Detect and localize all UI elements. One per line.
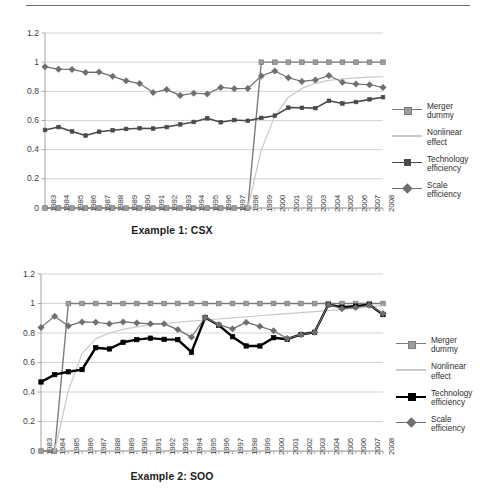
data-point-marker bbox=[232, 118, 236, 122]
legend-item-label: Merger dummy bbox=[431, 336, 458, 355]
data-point-marker bbox=[219, 120, 223, 124]
data-point-marker bbox=[42, 64, 48, 70]
x-axis-label: 2004 bbox=[332, 438, 341, 455]
data-point-marker bbox=[84, 134, 88, 138]
x-axis-label: 1999 bbox=[263, 438, 272, 455]
legend-item-label: Scale efficiency bbox=[427, 181, 461, 200]
data-point-marker bbox=[260, 116, 264, 120]
figure-page: 00.20.40.60.811.219831984198519861987198… bbox=[0, 0, 483, 498]
data-point-marker bbox=[52, 372, 56, 376]
legend-item-label: Scale efficiency bbox=[431, 415, 465, 434]
data-point-marker bbox=[136, 80, 142, 86]
data-point-marker bbox=[178, 123, 182, 127]
legend-item-label: Technology efficiency bbox=[427, 155, 468, 174]
y-axis-label: 0.4 bbox=[9, 387, 35, 397]
x-axis-label: 1997 bbox=[236, 438, 245, 455]
y-axis-label: 0.2 bbox=[9, 416, 35, 426]
data-point-marker bbox=[259, 60, 264, 65]
x-axis-label: 2007 bbox=[373, 195, 382, 212]
legend-line-icon bbox=[396, 369, 426, 370]
data-point-marker bbox=[148, 336, 152, 340]
data-point-marker bbox=[366, 82, 372, 88]
data-point-marker bbox=[109, 73, 115, 79]
x-axis-label: 1993 bbox=[181, 438, 190, 455]
data-point-marker bbox=[272, 68, 278, 74]
data-point-marker bbox=[258, 344, 262, 348]
data-point-marker bbox=[368, 98, 372, 102]
x-axis-label: 1986 bbox=[86, 438, 95, 455]
data-point-marker bbox=[107, 301, 112, 306]
data-point-marker bbox=[134, 320, 140, 326]
x-axis-label: 2000 bbox=[278, 195, 287, 212]
data-point-marker bbox=[273, 60, 278, 65]
data-point-marker bbox=[162, 337, 166, 341]
x-axis-label: 1993 bbox=[184, 195, 193, 212]
x-axis-label: 1994 bbox=[195, 438, 204, 455]
legend-swatch-icon bbox=[392, 105, 422, 114]
data-point-marker bbox=[121, 301, 126, 306]
data-point-marker bbox=[205, 117, 209, 121]
x-axis-label: 1988 bbox=[113, 438, 122, 455]
x-axis-label: 1997 bbox=[238, 195, 247, 212]
y-axis-label: 0.8 bbox=[13, 86, 39, 96]
x-axis-label: 1983 bbox=[45, 438, 54, 455]
data-point-marker bbox=[66, 370, 70, 374]
chart-legend-soo: Merger dummyNonlinear effectTechnology e… bbox=[396, 336, 472, 441]
data-point-marker bbox=[229, 326, 235, 332]
x-axis-label: 1986 bbox=[89, 195, 98, 212]
y-axis-label: 0.6 bbox=[9, 357, 35, 367]
data-point-marker bbox=[57, 125, 61, 129]
x-axis-label: 2002 bbox=[305, 438, 314, 455]
x-axis-label: 2003 bbox=[319, 195, 328, 212]
x-axis-label: 1984 bbox=[58, 438, 67, 455]
series-line bbox=[41, 304, 383, 452]
legend-item: Merger dummy bbox=[392, 102, 468, 121]
data-point-marker bbox=[151, 127, 155, 131]
x-axis-label: 2006 bbox=[360, 195, 369, 212]
data-point-marker bbox=[121, 340, 125, 344]
data-point-marker bbox=[327, 60, 332, 65]
data-point-marker bbox=[285, 75, 291, 81]
data-point-marker bbox=[230, 334, 234, 338]
data-point-marker bbox=[285, 301, 290, 306]
data-point-marker bbox=[313, 60, 318, 65]
data-point-marker bbox=[96, 69, 102, 75]
data-point-marker bbox=[189, 301, 194, 306]
x-axis-label: 1989 bbox=[127, 438, 136, 455]
data-point-marker bbox=[148, 301, 153, 306]
x-axis-label: 1985 bbox=[72, 438, 81, 455]
y-axis-label: 0.8 bbox=[9, 328, 35, 338]
legend-swatch-icon bbox=[396, 418, 426, 427]
x-axis-label: 1994 bbox=[197, 195, 206, 212]
x-axis-label: 1989 bbox=[130, 195, 139, 212]
page-top-rule bbox=[26, 5, 470, 6]
legend-item: Technology efficiency bbox=[392, 155, 468, 174]
legend-line-icon bbox=[392, 135, 422, 136]
legend-swatch-icon bbox=[392, 184, 422, 193]
data-point-marker bbox=[39, 449, 44, 454]
legend-item-label: Nonlinear effect bbox=[427, 128, 462, 147]
data-point-marker bbox=[341, 102, 345, 106]
data-point-marker bbox=[353, 81, 359, 87]
data-point-marker bbox=[218, 84, 224, 90]
chart-figure-csx: 00.20.40.60.811.219831984198519861987198… bbox=[0, 14, 483, 246]
data-point-marker bbox=[79, 319, 85, 325]
data-point-marker bbox=[69, 66, 75, 72]
data-point-marker bbox=[120, 319, 126, 325]
data-point-marker bbox=[175, 326, 181, 332]
data-point-marker bbox=[257, 323, 263, 329]
data-point-marker bbox=[70, 130, 74, 134]
x-axis-label: 1996 bbox=[224, 195, 233, 212]
data-point-marker bbox=[162, 301, 167, 306]
legend-item: Scale efficiency bbox=[392, 181, 468, 200]
x-axis-label: 1999 bbox=[265, 195, 274, 212]
x-axis-label: 1992 bbox=[168, 438, 177, 455]
series-line bbox=[45, 97, 383, 135]
data-point-marker bbox=[189, 350, 193, 354]
x-axis-label: 2003 bbox=[318, 438, 327, 455]
legend-swatch-icon bbox=[392, 131, 422, 140]
legend-item: Merger dummy bbox=[396, 336, 472, 355]
legend-swatch-icon bbox=[392, 158, 422, 167]
data-point-marker bbox=[176, 337, 180, 341]
series-line bbox=[45, 62, 383, 208]
